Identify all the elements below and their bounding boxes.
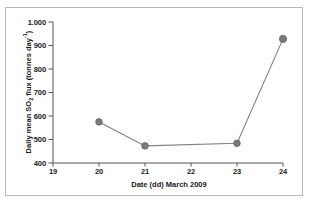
chart-figure: 1.000 900 800 700 600 500 400 19 20 21 2… bbox=[0, 0, 311, 202]
data-series-line bbox=[99, 39, 283, 146]
data-point-24 bbox=[279, 35, 286, 42]
plot-area bbox=[0, 0, 311, 202]
data-markers bbox=[96, 35, 287, 149]
y-axis bbox=[49, 22, 54, 163]
data-point-23 bbox=[234, 140, 241, 147]
x-axis bbox=[53, 163, 283, 167]
data-point-20 bbox=[96, 119, 103, 126]
data-point-21 bbox=[142, 143, 149, 150]
